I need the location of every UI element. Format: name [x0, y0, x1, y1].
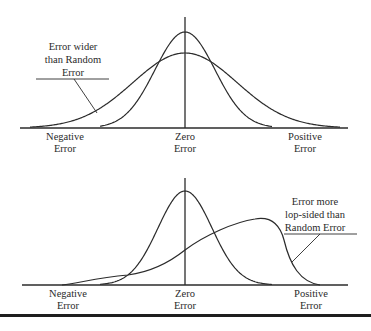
- top-label-positive-1: Positive: [288, 131, 322, 142]
- bottom-panel: Error more lop-sided than Random Error N…: [22, 178, 357, 311]
- bottom-annotation-line-1: Error more: [292, 196, 339, 207]
- bottom-annotation-line-2: lop-sided than: [285, 209, 346, 220]
- bottom-label-negative-1: Negative: [49, 288, 87, 299]
- top-annotation-line-1: Error wider: [49, 41, 98, 52]
- top-annotation-line-3: Error: [62, 67, 85, 78]
- top-panel: Error wider than Random Error Negative E…: [20, 17, 348, 154]
- bottom-label-positive-1: Positive: [294, 288, 328, 299]
- bottom-random-error-curve: [100, 191, 272, 284]
- top-label-negative-1: Negative: [46, 131, 84, 142]
- bottom-annotation-line-3: Random Error: [285, 222, 346, 233]
- top-random-error-curve: [100, 32, 272, 127]
- bottom-annotation-leader: [292, 234, 320, 262]
- error-distribution-diagram: Error wider than Random Error Negative E…: [0, 0, 371, 331]
- bottom-label-zero-2: Error: [174, 300, 197, 311]
- bottom-label-zero-1: Zero: [175, 288, 195, 299]
- bottom-label-negative-2: Error: [57, 300, 80, 311]
- top-label-zero-2: Error: [174, 143, 197, 154]
- top-label-positive-2: Error: [294, 143, 317, 154]
- bottom-label-positive-2: Error: [300, 300, 323, 311]
- page-bottom-rule: [0, 314, 371, 317]
- top-annotation-line-2: than Random: [45, 54, 101, 65]
- top-label-zero-1: Zero: [175, 131, 195, 142]
- top-label-negative-2: Error: [54, 143, 77, 154]
- top-annotation-leader: [74, 79, 97, 113]
- bottom-lopsided-error-curve: [62, 218, 320, 285]
